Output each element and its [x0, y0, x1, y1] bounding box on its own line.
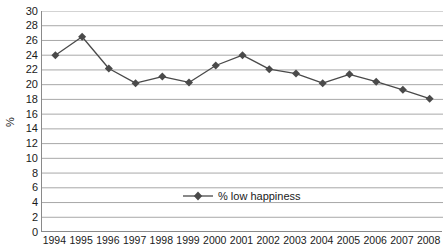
data-point-1994 — [51, 51, 59, 59]
x-axis-tick-labels: 1994199519961997199819992000200120022003… — [41, 234, 442, 248]
y-tick-2: 2 — [18, 212, 38, 223]
data-point-2007 — [399, 86, 407, 94]
y-tick-28: 28 — [18, 20, 38, 31]
legend-marker-icon — [183, 190, 213, 202]
y-tick-4: 4 — [18, 197, 38, 208]
y-tick-26: 26 — [18, 35, 38, 46]
y-tick-22: 22 — [18, 64, 38, 75]
y-axis-label: % — [0, 114, 20, 130]
y-tick-24: 24 — [18, 50, 38, 61]
y-tick-16: 16 — [18, 109, 38, 120]
y-tick-0: 0 — [18, 227, 38, 238]
x-tick-2008: 2008 — [412, 234, 446, 247]
legend-label-low-happiness: % low happiness — [218, 190, 301, 202]
y-tick-12: 12 — [18, 138, 38, 149]
data-point-1999 — [185, 78, 193, 86]
chart-legend: % low happiness — [183, 190, 301, 202]
data-point-2004 — [319, 79, 327, 87]
y-tick-8: 8 — [18, 168, 38, 179]
y-tick-30: 30 — [18, 6, 38, 17]
y-axis-tick-labels: 302826242220181614121086420 — [18, 0, 38, 249]
gridlines — [42, 11, 443, 217]
y-tick-10: 10 — [18, 153, 38, 164]
y-tick-18: 18 — [18, 94, 38, 105]
data-point-2001 — [239, 51, 247, 59]
y-tick-20: 20 — [18, 79, 38, 90]
data-point-2003 — [292, 70, 300, 78]
data-point-2002 — [265, 65, 273, 73]
data-point-2005 — [345, 70, 353, 78]
data-point-1998 — [158, 73, 166, 81]
data-point-2000 — [212, 62, 220, 70]
data-point-1997 — [132, 79, 140, 87]
y-tick-14: 14 — [18, 123, 38, 134]
series-markers-low-happiness — [51, 33, 433, 103]
data-point-2008 — [426, 95, 434, 103]
y-tick-6: 6 — [18, 182, 38, 193]
